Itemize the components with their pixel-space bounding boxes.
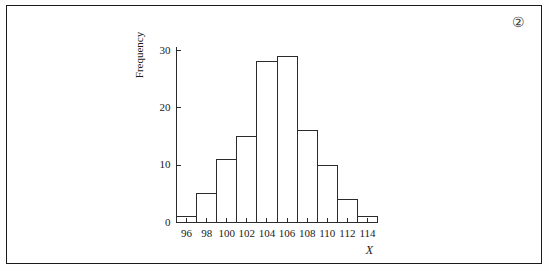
histogram-bars: [177, 56, 378, 222]
y-tick-label: 20: [145, 102, 171, 113]
histogram-bar: [317, 165, 337, 222]
x-axis-title-text: X: [366, 243, 373, 257]
histogram-bar: [237, 137, 257, 223]
x-tick-label: 114: [352, 228, 382, 239]
y-tick-label: 0: [145, 217, 171, 228]
y-axis-title: Frequency: [133, 10, 145, 100]
figure-page: ② Frequency X 0102030 969810010210410610…: [0, 0, 549, 271]
histogram-bar: [277, 56, 297, 222]
histogram-plot: Frequency X 0102030 96981001021041061081…: [0, 0, 549, 271]
histogram-bar: [257, 62, 277, 223]
y-tick-label: 30: [145, 45, 171, 56]
y-tick-label: 10: [145, 159, 171, 170]
histogram-bar: [217, 159, 237, 222]
x-axis-title: X: [0, 243, 549, 258]
histogram-bar: [297, 131, 317, 223]
